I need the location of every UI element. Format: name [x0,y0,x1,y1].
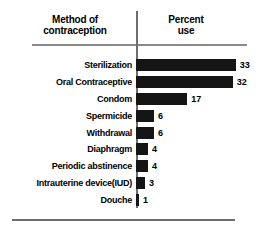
bar-row: Withdrawal6 [0,125,263,141]
bar-value-label: 4 [152,143,157,155]
bar-row: Oral Contraceptive32 [0,74,263,90]
bar-value-label: 17 [191,93,201,105]
bar-row-label: Spermicide [0,110,132,122]
bar-row-label: Sterilization [0,59,132,71]
contraception-bar-chart: Method of contraception Percent use Ster… [0,0,263,229]
bar-row: Intrauterine device(IUD)3 [0,175,263,191]
bar-value-label: 1 [143,194,148,206]
bar-value-label: 33 [240,59,250,71]
bar-rect [136,110,154,122]
bar-row-label: Oral Contraceptive [0,76,132,88]
bar-rect [136,93,187,105]
bar-row-label: Diaphragm [0,143,132,155]
bar-rect [136,194,139,206]
bar-rect [136,160,148,172]
bar-rect [136,143,148,155]
bar-value-label: 6 [158,110,163,122]
bar-value-label: 6 [158,127,163,139]
footer-rule [12,219,235,221]
bar-rows: Sterilization33Oral Contraceptive32Condo… [0,0,263,229]
bar-row: Spermicide6 [0,108,263,124]
bar-row-label: Condom [0,93,132,105]
bar-row-label: Withdrawal [0,127,132,139]
bar-rect [136,59,236,71]
bar-rect [136,76,233,88]
bar-value-label: 4 [152,160,157,172]
bar-row: Diaphragm4 [0,141,263,157]
bar-row-label: Periodic abstinence [0,160,132,172]
bar-row: Condom17 [0,91,263,107]
bar-row-label: Intrauterine device(IUD) [0,177,132,189]
bar-row: Sterilization33 [0,57,263,73]
bar-row-label: Douche [0,194,132,206]
bar-row: Periodic abstinence4 [0,158,263,174]
bar-value-label: 3 [149,177,154,189]
bar-row: Douche1 [0,192,263,208]
bar-rect [136,177,145,189]
bar-value-label: 32 [237,76,247,88]
bar-rect [136,127,154,139]
